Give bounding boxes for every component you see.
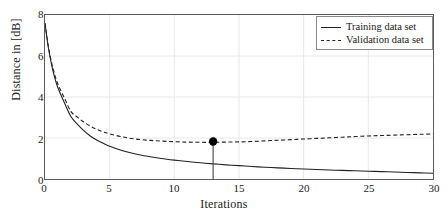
y-tick-0: 0 — [38, 175, 44, 186]
x-tick-20: 20 — [299, 183, 310, 194]
y-axis-title: Distance in [dB] — [9, 0, 24, 140]
solid-line-swatch-icon — [320, 22, 342, 32]
chart-legend: Training data set Validation data set — [316, 16, 433, 50]
legend-label-training: Training data set — [346, 20, 416, 33]
y-tick-4: 4 — [38, 92, 44, 103]
x-tick-25: 25 — [364, 183, 375, 194]
x-tick-5: 5 — [106, 183, 112, 194]
x-tick-15: 15 — [234, 183, 245, 194]
y-tick-2: 2 — [38, 133, 44, 144]
legend-item-training: Training data set — [320, 20, 428, 33]
x-tick-10: 10 — [169, 183, 180, 194]
x-axis-title: Iterations — [0, 197, 448, 212]
legend-label-validation: Validation data set — [346, 33, 424, 46]
y-tick-8: 8 — [38, 9, 44, 20]
y-tick-6: 6 — [38, 50, 44, 61]
dashed-line-swatch-icon — [320, 35, 342, 45]
x-tick-30: 30 — [429, 183, 440, 194]
chart-figure: 051015202530 02468 Iterations Distance i… — [0, 0, 448, 217]
best-point-marker — [209, 137, 217, 145]
legend-item-validation: Validation data set — [320, 33, 428, 46]
